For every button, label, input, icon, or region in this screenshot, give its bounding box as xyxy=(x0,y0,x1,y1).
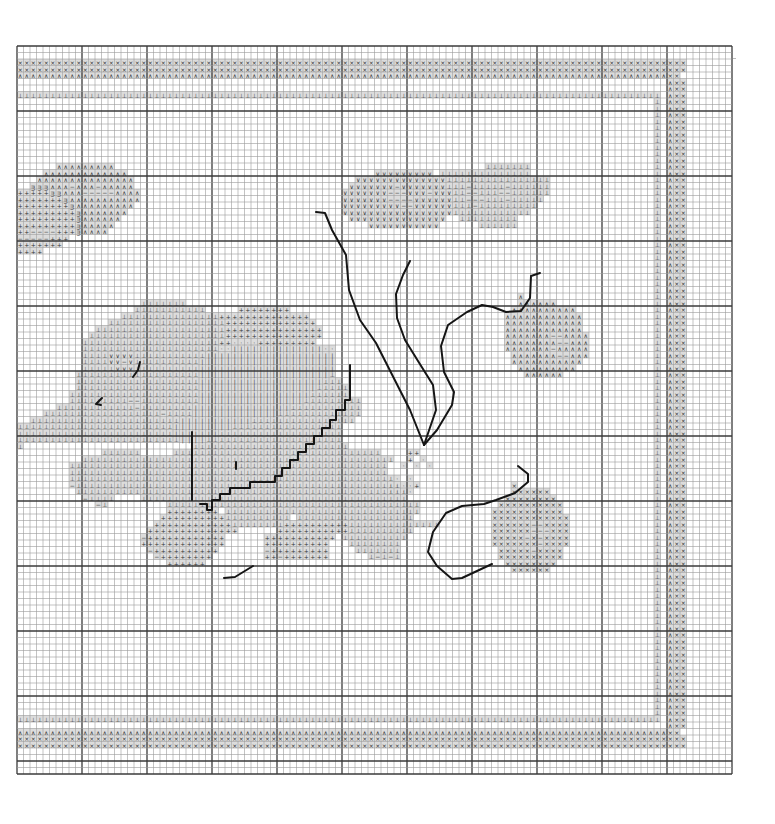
stitch-symbol: × xyxy=(570,742,575,749)
stitch-symbol: × xyxy=(499,742,504,749)
stitch-symbol: ⊥ xyxy=(583,92,588,99)
stitch-symbol: × xyxy=(291,742,296,749)
stitch-symbol: ⊥ xyxy=(473,716,478,723)
stitch-symbol: ∨ xyxy=(415,222,419,229)
stitch-symbol: × xyxy=(265,742,270,749)
stitch-symbol: ⊥ xyxy=(24,92,29,99)
stitch-symbol: ⊥ xyxy=(24,716,29,723)
stitch-symbol: ⊥ xyxy=(96,92,101,99)
stitch-symbol: ∧ xyxy=(51,72,55,79)
stitch-symbol: × xyxy=(544,566,549,573)
stitch-symbol: + xyxy=(50,241,55,248)
stitch-symbol: ⊥ xyxy=(466,92,471,99)
stitch-symbol: ⊥ xyxy=(50,716,55,723)
stitch-symbol: ⊥ xyxy=(122,716,127,723)
stitch-symbol: + xyxy=(226,527,231,534)
backstitch-path xyxy=(396,261,436,445)
stitch-symbol: ⊥ xyxy=(252,92,257,99)
stitch-symbol: ⊥ xyxy=(141,436,146,443)
stitch-symbol: ⊥ xyxy=(265,92,270,99)
stitch-symbol: ⊥ xyxy=(128,716,133,723)
stitch-symbol: ⊥ xyxy=(89,92,94,99)
stitch-symbol: × xyxy=(232,742,237,749)
stitch-symbol: ∧ xyxy=(551,72,555,79)
stitch-symbol: ⊥ xyxy=(297,92,302,99)
stitch-symbol: × xyxy=(629,742,634,749)
stitch-symbol: ⊥ xyxy=(57,436,62,443)
stitch-symbol: ⊥ xyxy=(583,716,588,723)
stitch-symbol: ∧ xyxy=(246,72,250,79)
stitch-symbol: ⊥ xyxy=(284,716,289,723)
stitch-symbol: + xyxy=(297,553,302,560)
stitch-symbol: ∧ xyxy=(200,72,204,79)
stitch-symbol: ⊥ xyxy=(148,92,153,99)
stitch-symbol: × xyxy=(96,742,101,749)
stitch-symbol: × xyxy=(674,709,679,716)
stitch-symbol: ⊥ xyxy=(622,92,627,99)
stitch-symbol: ⊥ xyxy=(141,495,146,502)
stitch-symbol: ∧ xyxy=(96,72,100,79)
stitch-symbol: ∧ xyxy=(161,72,165,79)
stitch-symbol: × xyxy=(603,742,608,749)
stitch-symbol: ⊥ xyxy=(655,716,660,723)
stitch-symbol: + xyxy=(284,553,289,560)
stitch-symbol: ⊥ xyxy=(187,716,192,723)
stitch-symbol: + xyxy=(206,553,211,560)
stitch-symbol: ⊥ xyxy=(512,222,517,229)
stitch-symbol: ⊥ xyxy=(466,716,471,723)
stitch-symbol: + xyxy=(310,553,315,560)
stitch-symbol: ⊥ xyxy=(154,495,159,502)
stitch-symbol: | xyxy=(182,436,184,444)
stitch-symbol: ⊥ xyxy=(18,92,23,99)
stitch-symbol: ⊥ xyxy=(388,716,393,723)
stitch-symbol: ⊥ xyxy=(180,92,185,99)
stitch-symbol: + xyxy=(167,560,172,567)
stitch-symbol: ⊥ xyxy=(479,222,484,229)
stitch-symbol: × xyxy=(174,742,179,749)
stitch-symbol: × xyxy=(427,742,432,749)
stitch-symbol: ∧ xyxy=(597,72,601,79)
stitch-symbol: ∧ xyxy=(603,72,607,79)
stitch-symbol: × xyxy=(57,742,62,749)
stitch-symbol: × xyxy=(213,742,218,749)
stitch-symbol: ⊥ xyxy=(200,716,205,723)
stitch-symbol: × xyxy=(538,742,543,749)
stitch-symbol: ⊥ xyxy=(356,547,361,554)
stitch-symbol: × xyxy=(245,742,250,749)
stitch-symbol: ∧ xyxy=(304,72,308,79)
stitch-symbol: − xyxy=(278,553,283,560)
stitch-symbol: × xyxy=(661,742,666,749)
stitch-symbol: × xyxy=(525,742,530,749)
stitch-symbol: ⊥ xyxy=(395,716,400,723)
stitch-symbol: ∧ xyxy=(252,72,256,79)
stitch-symbol: ⊥ xyxy=(349,92,354,99)
stitch-symbol: ⊥ xyxy=(401,716,406,723)
stitch-symbol: ⊥ xyxy=(37,436,42,443)
stitch-symbol: ⊥ xyxy=(499,92,504,99)
stitch-symbol: ⊥ xyxy=(154,436,159,443)
stitch-symbol: ∧ xyxy=(311,72,315,79)
stitch-symbol: ∧ xyxy=(233,72,237,79)
stitch-symbol: + xyxy=(161,553,166,560)
stitch-symbol: ⊥ xyxy=(538,196,543,203)
stitch-symbol: ∧ xyxy=(369,72,373,79)
stitch-symbol: ⊥ xyxy=(486,222,491,229)
stitch-symbol: ᴟ xyxy=(77,228,81,236)
stitch-symbol: ⊥ xyxy=(44,436,49,443)
stitch-symbol: × xyxy=(401,742,406,749)
stitch-symbol: ⊥ xyxy=(206,716,211,723)
stitch-symbol: × xyxy=(447,742,452,749)
stitch-symbol: × xyxy=(141,742,146,749)
stitch-symbol: × xyxy=(590,742,595,749)
stitch-symbol: ⊥ xyxy=(180,716,185,723)
stitch-symbol: + xyxy=(330,534,335,541)
stitch-symbol: ∧ xyxy=(636,72,640,79)
stitch-symbol: + xyxy=(323,553,328,560)
stitch-symbol: ⊥ xyxy=(174,436,179,443)
stitch-symbol: ∧ xyxy=(389,72,393,79)
stitch-symbol: ⊥ xyxy=(44,92,49,99)
stitch-symbol: − xyxy=(154,553,159,560)
stitch-symbol: ⊥ xyxy=(336,92,341,99)
stitch-symbol: ∧ xyxy=(610,72,614,79)
stitch-symbol: ⊥ xyxy=(434,716,439,723)
